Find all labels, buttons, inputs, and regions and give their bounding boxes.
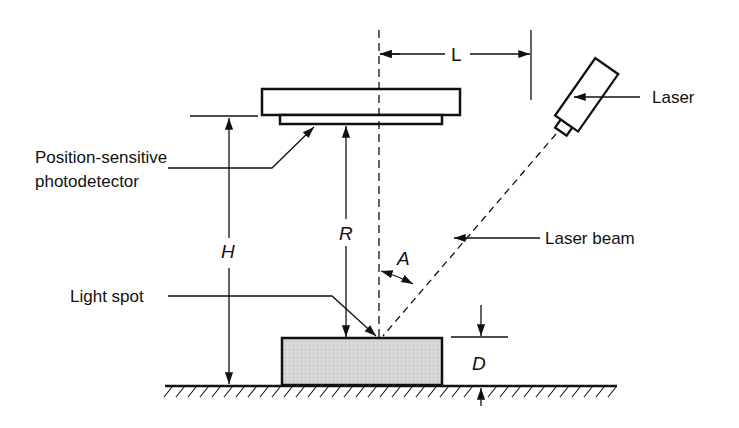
sample-block: [282, 338, 442, 385]
laser-device: [549, 58, 618, 140]
detector-housing: [262, 89, 460, 115]
laser-beam-line: [383, 134, 556, 336]
photodetector-label-line1: Position-sensitive: [35, 148, 167, 167]
dimension-D-label: D: [472, 353, 486, 374]
dimension-D: D: [451, 305, 508, 406]
dimension-L-label: L: [451, 44, 462, 65]
photodetector-sensor: [280, 115, 442, 124]
dimension-R-label: R: [339, 223, 353, 244]
dimension-H: H: [190, 116, 258, 384]
laser-triangulation-diagram: L Laser Laser beam Position-sensitive ph…: [0, 0, 739, 428]
angle-A: A: [381, 248, 413, 284]
dimension-R: R: [339, 126, 353, 337]
photodetector-assembly: [262, 89, 460, 124]
angle-A-label: A: [396, 248, 410, 269]
light-spot-label: Light spot: [70, 287, 144, 306]
ground-surface: [164, 386, 617, 397]
laser-label: Laser: [652, 88, 695, 107]
photodetector-label-line2: photodetector: [35, 172, 139, 191]
laser-beam-label: Laser beam: [545, 229, 635, 248]
dimension-H-label: H: [221, 241, 235, 262]
